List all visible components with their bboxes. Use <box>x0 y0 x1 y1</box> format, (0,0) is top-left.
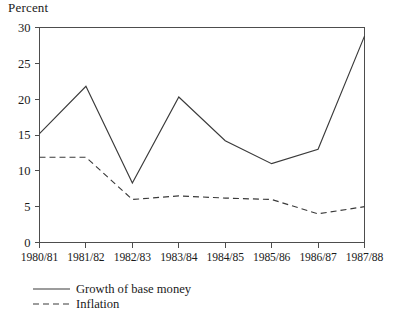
line-chart-plot: 051015202530 1980/811981/821982/831983/8… <box>0 0 397 319</box>
y-tick-label: 0 <box>24 236 30 250</box>
x-tick-label: 1981/82 <box>67 251 105 264</box>
chart-figure: Percent 051015202530 1980/811981/821982/… <box>0 0 397 319</box>
y-tick-label: 20 <box>18 93 31 107</box>
y-tick-marks <box>35 28 40 243</box>
chart-legend: Growth of base moneyInflation <box>33 282 192 311</box>
x-tick-labels: 1980/811981/821982/831983/841984/851985/… <box>21 251 384 264</box>
y-tick-label: 10 <box>18 164 31 178</box>
y-tick-label: 15 <box>18 128 31 142</box>
y-tick-label: 25 <box>18 57 31 71</box>
series-line-0 <box>40 36 365 183</box>
data-series-group <box>40 36 365 214</box>
y-tick-label: 30 <box>18 21 31 35</box>
y-tick-label: 5 <box>24 200 30 214</box>
x-tick-label: 1987/88 <box>346 251 384 264</box>
legend-label-1: Inflation <box>76 297 120 311</box>
x-tick-label: 1984/85 <box>207 251 245 264</box>
x-tick-label: 1982/83 <box>114 251 152 264</box>
x-tick-label: 1986/87 <box>299 251 337 264</box>
series-line-1 <box>40 157 365 214</box>
x-tick-label: 1983/84 <box>160 251 198 264</box>
x-tick-label: 1980/81 <box>21 251 59 264</box>
x-tick-label: 1985/86 <box>253 251 291 264</box>
x-tick-marks <box>40 243 365 248</box>
y-tick-labels: 051015202530 <box>18 21 31 250</box>
legend-label-0: Growth of base money <box>76 282 192 296</box>
